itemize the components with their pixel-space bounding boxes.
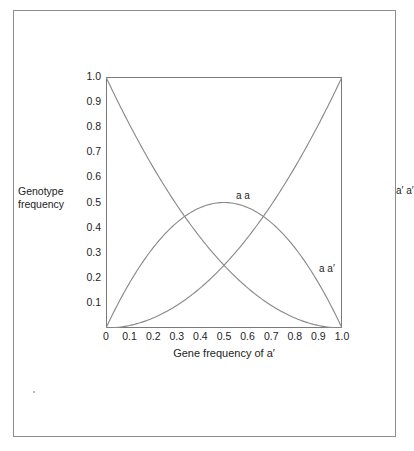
scan-speck-artifact [33,391,35,393]
y-tick-label: 0.6 [73,171,101,182]
y-tick-label: 0.7 [73,146,101,157]
y-axis-title-line1: Genotype [18,185,74,198]
curve-annotation-heterozygote: a a′ [319,263,335,274]
y-tick-label: 0.4 [73,222,101,233]
x-axis-tick-labels: 0 0.1 0.2 0.3 0.4 0.5 0.6 0.7 0.8 0.9 1.… [106,331,342,345]
y-axis-title-line2: frequency [18,198,74,211]
curve-annotation-homozygote-a: a a [236,190,250,201]
y-tick-label: 0.1 [73,297,101,308]
curve-annotation-homozygote-aprime: a′ a′ [396,185,414,196]
y-tick-label: 0.2 [73,272,101,283]
y-tick-label: 1.0 [73,71,101,82]
y-axis-tick-labels: 1.0 0.9 0.8 0.7 0.6 0.5 0.4 0.3 0.2 0.1 [72,77,101,328]
y-axis-title: Genotype frequency [18,185,74,210]
y-tick-label: 0.5 [73,197,101,208]
y-tick-label: 0.8 [73,121,101,132]
plot-area: a a a a′ a′ a′ [106,77,342,328]
curves-svg [106,77,342,328]
x-tick-label: 1.0 [325,331,359,342]
y-tick-label: 0.3 [73,247,101,258]
y-tick-label: 0.9 [73,96,101,107]
x-axis-title: Gene frequency of a′ [106,347,342,359]
